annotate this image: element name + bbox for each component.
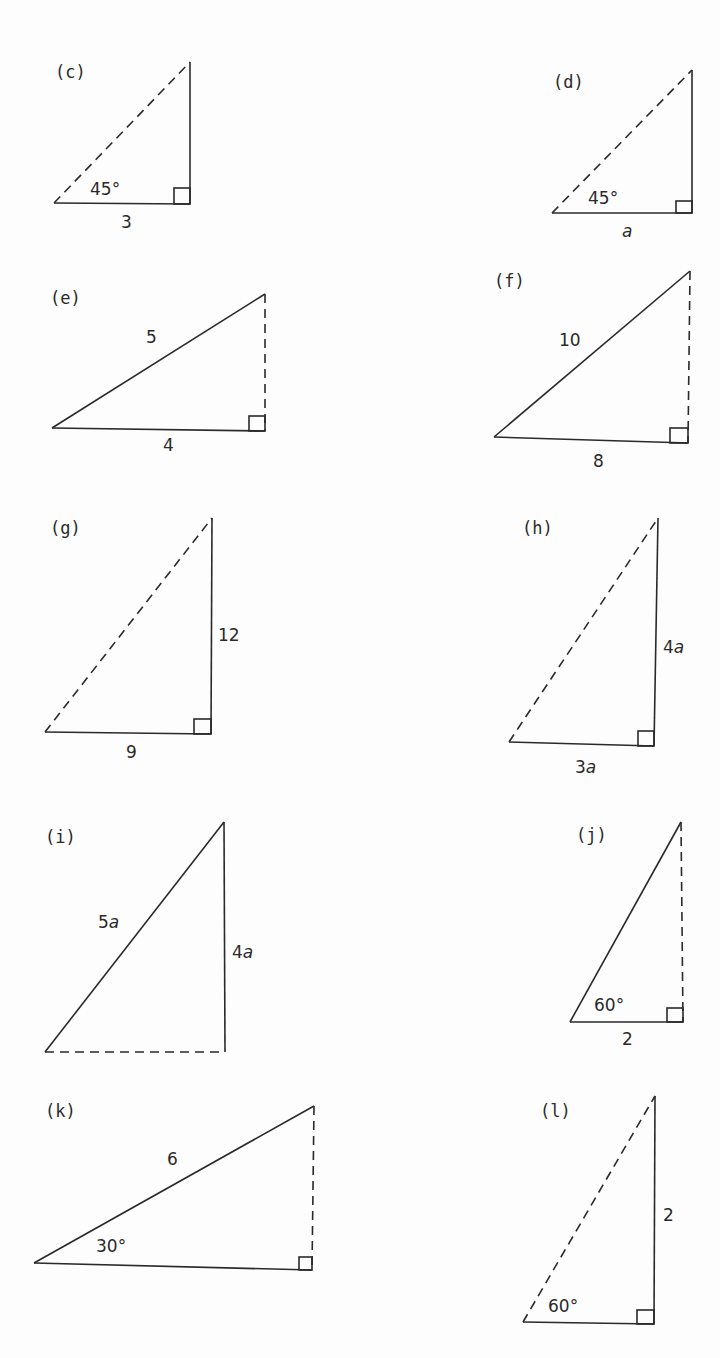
- triangle-k-hypotenuse: [34, 1106, 314, 1263]
- triangle-h-vertical-side: [654, 518, 658, 746]
- triangle-c-base-length: 3: [121, 212, 132, 232]
- triangle-c: (c) 45° 3: [54, 62, 190, 232]
- triangle-k-angle: 30°: [96, 1236, 126, 1256]
- triangle-k-hypotenuse-length: 6: [167, 1149, 178, 1169]
- triangle-l-hypotenuse: [523, 1096, 655, 1322]
- triangle-h-base-length: 3a: [575, 757, 596, 777]
- triangle-f-vertical-side: [688, 271, 690, 443]
- triangle-j-base-length: 2: [622, 1029, 633, 1049]
- triangle-e: (e) 5 4: [50, 288, 265, 455]
- triangle-g-vertical-length: 12: [218, 625, 240, 645]
- triangle-f-label: (f): [494, 271, 525, 291]
- triangle-e-base-length: 4: [163, 435, 174, 455]
- triangle-c-label: (c): [55, 62, 86, 82]
- triangle-l-angle: 60°: [548, 1296, 578, 1316]
- triangle-h-label: (h): [522, 518, 553, 538]
- triangle-c-base: [54, 203, 190, 204]
- triangle-f-base-length: 8: [593, 451, 604, 471]
- triangle-i-vertical-side: [224, 822, 225, 1052]
- right-angle-marker: [194, 719, 211, 734]
- triangle-g-label: (g): [50, 518, 81, 538]
- triangle-e-label: (e): [50, 288, 81, 308]
- triangle-d: (d) 45° a: [552, 70, 692, 241]
- triangle-e-hypotenuse: [52, 294, 265, 428]
- triangle-h-vertical-length: 4a: [663, 637, 684, 657]
- triangle-g-hypotenuse: [45, 518, 212, 732]
- triangle-f-hypotenuse: [494, 271, 690, 437]
- triangle-d-label: (d): [553, 72, 584, 92]
- triangle-k: (k) 6 30°: [34, 1101, 314, 1270]
- triangle-h-hypotenuse: [509, 518, 658, 742]
- triangle-f-hypotenuse-length: 10: [559, 330, 581, 350]
- right-angle-marker: [670, 428, 688, 443]
- triangle-h-base: [509, 742, 654, 746]
- triangle-h: (h) 4a 3a: [509, 518, 684, 777]
- triangle-i-vertical-length: 4a: [232, 942, 253, 962]
- right-angle-marker: [299, 1257, 312, 1270]
- triangle-f: (f) 10 8: [494, 271, 690, 471]
- triangle-k-base: [34, 1263, 312, 1270]
- triangle-e-base: [52, 428, 265, 431]
- triangle-g: (g) 12 9: [45, 518, 240, 762]
- triangle-g-vertical-side: [211, 518, 212, 734]
- triangle-f-base: [494, 437, 688, 443]
- right-angle-marker: [174, 188, 190, 204]
- triangle-d-angle: 45°: [588, 188, 618, 208]
- triangle-d-base-length: a: [622, 221, 632, 241]
- triangle-k-vertical-side: [312, 1106, 314, 1270]
- right-angle-marker: [637, 1310, 654, 1324]
- right-angle-marker: [676, 201, 692, 213]
- triangle-g-base: [45, 732, 211, 734]
- triangle-g-base-length: 9: [126, 742, 137, 762]
- triangle-c-hypotenuse: [54, 62, 190, 203]
- triangle-i-label: (i): [45, 827, 76, 847]
- triangle-j-vertical-side: [681, 822, 683, 1022]
- triangle-j-hypotenuse: [570, 822, 681, 1022]
- triangle-k-label: (k): [45, 1101, 76, 1121]
- right-angle-marker: [249, 416, 265, 431]
- figure-svg: (c) 45° 3 (d) 45° a (e) 5 4 (f) 10 8: [0, 0, 720, 1358]
- triangle-j: (j) 60° 2: [570, 822, 683, 1049]
- triangle-i-hypotenuse: [45, 822, 224, 1052]
- triangle-l-vertical-length: 2: [663, 1205, 674, 1225]
- triangle-l-label: (l): [540, 1101, 571, 1121]
- right-angle-marker: [667, 1008, 683, 1022]
- triangle-e-hypotenuse-length: 5: [146, 327, 157, 347]
- triangle-l: (l) 2 60°: [523, 1096, 674, 1324]
- triangle-j-angle: 60°: [594, 995, 624, 1015]
- triangle-i: (i) 5a 4a: [45, 822, 253, 1052]
- triangle-i-hypotenuse-length: 5a: [98, 912, 119, 932]
- right-angle-marker: [638, 731, 654, 746]
- triangle-figure: (c) 45° 3 (d) 45° a (e) 5 4 (f) 10 8: [0, 0, 720, 1358]
- triangle-l-base: [523, 1322, 654, 1324]
- triangle-j-label: (j): [576, 825, 607, 845]
- triangle-c-angle: 45°: [90, 179, 120, 199]
- triangle-l-vertical-side: [654, 1096, 655, 1324]
